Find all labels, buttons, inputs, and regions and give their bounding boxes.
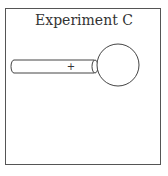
diagram-canvas: + [0,0,168,176]
charged-rod [11,60,94,73]
rod-charge-label: + [67,61,75,72]
conducting-sphere [97,44,139,86]
